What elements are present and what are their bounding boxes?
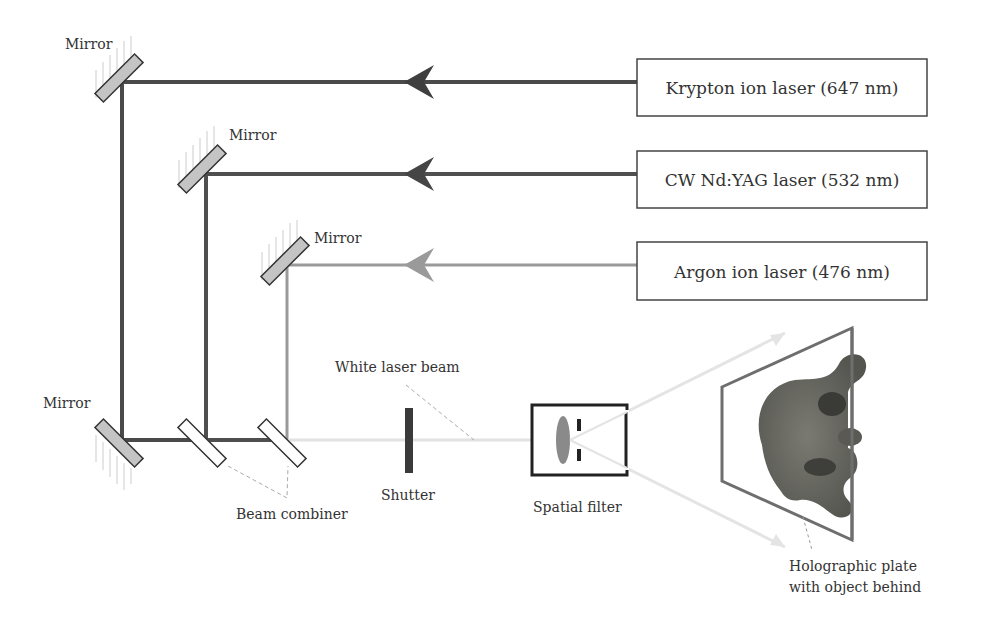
beam-combiner-1 bbox=[178, 419, 226, 467]
mirror-3-label: Mirror bbox=[314, 230, 362, 246]
mirror-2-label: Mirror bbox=[229, 127, 277, 143]
mirror-4-label: Mirror bbox=[43, 395, 91, 411]
shutter bbox=[405, 408, 413, 473]
ndyag-beam-path bbox=[206, 157, 637, 440]
laser-box-ndyag: CW Nd:YAG laser (532 nm) bbox=[637, 151, 927, 208]
plate-label-line2: with object behind bbox=[789, 579, 921, 595]
laser-label-ndyag: CW Nd:YAG laser (532 nm) bbox=[665, 170, 900, 190]
beam-combiner-label: Beam combiner bbox=[236, 506, 348, 522]
pinhole-top bbox=[577, 419, 581, 431]
white-beam-leader bbox=[406, 385, 474, 440]
spatial-filter bbox=[532, 405, 627, 475]
holographic-plate bbox=[722, 328, 866, 540]
laser-box-argon: Argon ion laser (476 nm) bbox=[637, 242, 927, 300]
mirror-3 bbox=[261, 220, 309, 285]
mirror-1-label: Mirror bbox=[65, 36, 113, 52]
mirror-2 bbox=[178, 126, 226, 193]
plate-label-line1: Holographic plate bbox=[789, 558, 917, 574]
pinhole-bottom bbox=[577, 449, 581, 461]
mirror-4 bbox=[95, 419, 143, 490]
shutter-label: Shutter bbox=[381, 487, 435, 503]
laser-label-argon: Argon ion laser (476 nm) bbox=[673, 262, 890, 282]
beam-combiner-2 bbox=[258, 419, 306, 467]
krypton-beam-path bbox=[122, 65, 637, 440]
holography-setup-diagram: Krypton ion laser (647 nm) CW Nd:YAG las… bbox=[0, 0, 988, 626]
white-beam-label: White laser beam bbox=[335, 359, 460, 375]
lens-icon bbox=[556, 416, 570, 464]
beam-combiner-leader bbox=[228, 466, 288, 498]
laser-label-krypton: Krypton ion laser (647 nm) bbox=[666, 78, 899, 98]
laser-box-krypton: Krypton ion laser (647 nm) bbox=[637, 59, 927, 116]
spatial-filter-label: Spatial filter bbox=[533, 499, 622, 515]
